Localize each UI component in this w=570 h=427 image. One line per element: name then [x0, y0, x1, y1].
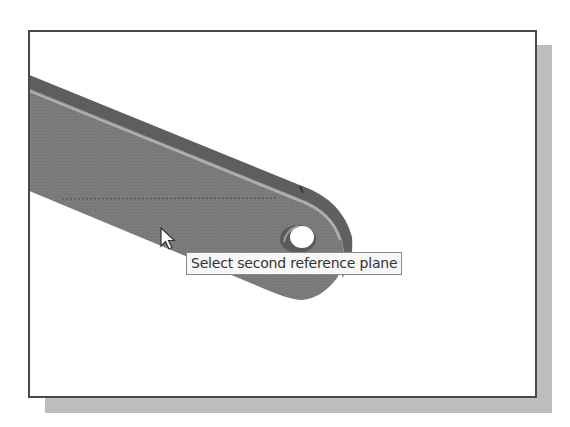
arrow-pointer-icon	[160, 227, 180, 253]
tooltip: Select second reference plane	[186, 252, 402, 275]
3d-part-model[interactable]	[28, 30, 537, 398]
graphics-viewport[interactable]: Select second reference plane	[28, 30, 537, 398]
